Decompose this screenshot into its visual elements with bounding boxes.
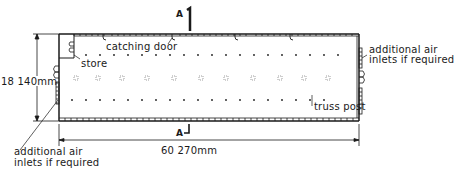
catching-door-label: catching door <box>106 41 177 52</box>
truss-post-dots <box>71 54 339 101</box>
section-mark-top: A <box>176 9 183 20</box>
store-room <box>59 34 74 58</box>
feeder-squares <box>74 76 330 80</box>
store-label: store <box>81 58 107 69</box>
length-dimension-line <box>59 124 359 146</box>
section-arrow-bottom <box>184 124 189 133</box>
air-inlets-right-label-line2: inlets if required <box>369 54 454 65</box>
air-inlets-left-label-line2: inlets if required <box>14 157 99 168</box>
width-dimension-label: 18 140mm <box>1 76 57 87</box>
section-arrow-top <box>187 8 190 31</box>
section-mark-bottom: A <box>176 128 183 139</box>
leader-lines <box>20 38 367 150</box>
air-inlets-left-label-line1: additional air <box>14 146 83 157</box>
length-dimension-label: 60 270mm <box>161 145 217 156</box>
truss-post-label: truss post <box>314 101 366 112</box>
